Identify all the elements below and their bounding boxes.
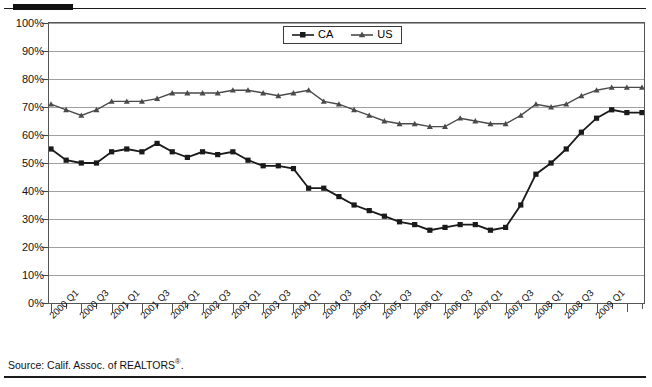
y-axis-label: 90% — [0, 45, 44, 57]
data-point — [64, 158, 69, 163]
data-point — [49, 101, 54, 106]
data-point — [94, 160, 99, 165]
source-note: Source: Calif. Assoc. of REALTORS®. — [8, 357, 184, 371]
y-axis-tick — [42, 191, 48, 192]
source-text: Source: Calif. Assoc. of REALTORS — [8, 359, 175, 371]
data-point — [624, 110, 629, 115]
data-point — [230, 149, 235, 154]
data-point — [291, 166, 296, 171]
y-axis-label: 60% — [0, 129, 44, 141]
chart-page: 0%10%20%30%40%50%60%70%80%90%100%2000 Q1… — [0, 0, 652, 387]
y-axis-tick — [42, 163, 48, 164]
data-point — [458, 222, 463, 227]
series-line — [51, 110, 642, 230]
y-axis-tick — [42, 303, 48, 304]
data-point — [124, 146, 129, 151]
y-axis-label: 50% — [0, 157, 44, 169]
data-point — [564, 146, 569, 151]
y-axis-label: 20% — [0, 241, 44, 253]
data-point — [49, 146, 54, 151]
data-point — [139, 149, 144, 154]
y-axis-tick — [42, 23, 48, 24]
x-axis-tick — [642, 304, 643, 309]
data-point — [276, 163, 281, 168]
data-point — [215, 152, 220, 157]
series-us — [49, 84, 644, 129]
data-point — [442, 225, 447, 230]
y-axis-tick — [42, 79, 48, 80]
chart-legend: CAUS — [283, 26, 402, 44]
data-point — [351, 202, 356, 207]
data-point — [367, 208, 372, 213]
data-point — [154, 141, 159, 146]
data-point — [200, 149, 205, 154]
data-point — [382, 214, 387, 219]
y-axis-tick — [42, 247, 48, 248]
header-rule-accent — [13, 4, 73, 10]
data-point — [488, 228, 493, 233]
data-point — [261, 163, 266, 168]
data-point — [412, 222, 417, 227]
legend-item-ca[interactable]: CA — [292, 29, 333, 40]
data-point — [185, 155, 190, 160]
data-point — [594, 116, 599, 121]
y-axis-tick — [42, 219, 48, 220]
data-point — [79, 160, 84, 165]
chart-title-clipped — [120, 0, 540, 3]
plot-area — [48, 22, 645, 304]
data-point — [639, 110, 644, 115]
x-axis-tick — [627, 304, 628, 312]
data-point — [109, 149, 114, 154]
data-point — [503, 225, 508, 230]
legend-marker-triangle-icon — [351, 30, 373, 40]
data-point — [579, 130, 584, 135]
data-point — [336, 194, 341, 199]
header-rule — [4, 8, 646, 9]
data-point — [533, 172, 538, 177]
y-axis-label: 10% — [0, 269, 44, 281]
data-point — [548, 160, 553, 165]
y-axis-label: 80% — [0, 73, 44, 85]
series-ca — [49, 107, 644, 233]
data-point — [609, 107, 614, 112]
footer-rule — [4, 376, 646, 378]
source-suffix: . — [181, 359, 184, 371]
data-point — [518, 202, 523, 207]
data-point — [397, 219, 402, 224]
data-point — [321, 186, 326, 191]
legend-item-us[interactable]: US — [351, 29, 392, 40]
data-point — [306, 186, 311, 191]
data-point — [245, 158, 250, 163]
legend-marker-square-icon — [292, 30, 314, 40]
data-point — [427, 228, 432, 233]
y-axis-tick — [42, 51, 48, 52]
y-axis-label: 70% — [0, 101, 44, 113]
chart-svg — [49, 23, 644, 303]
y-axis-tick — [42, 275, 48, 276]
y-axis-label: 0% — [0, 297, 44, 309]
legend-label: CA — [318, 29, 333, 40]
y-axis-tick — [42, 107, 48, 108]
data-point — [170, 149, 175, 154]
y-axis-label: 30% — [0, 213, 44, 225]
legend-label: US — [377, 29, 392, 40]
data-point — [473, 222, 478, 227]
y-axis-label: 100% — [0, 17, 44, 29]
y-axis-tick — [42, 135, 48, 136]
y-axis-label: 40% — [0, 185, 44, 197]
